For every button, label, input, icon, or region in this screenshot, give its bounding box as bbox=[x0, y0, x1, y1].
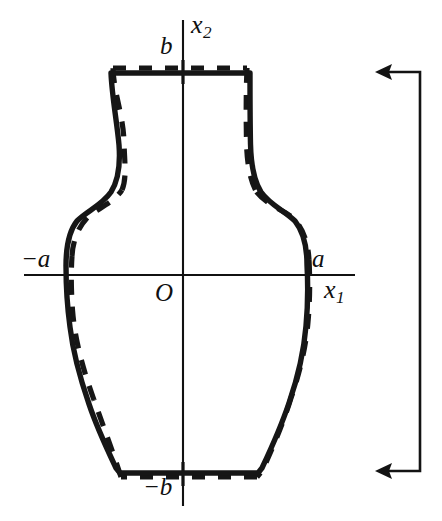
dashed-contour-group bbox=[71, 68, 309, 477]
figure-canvas: x2 x1 b −b −a a O bbox=[0, 0, 442, 521]
tick-label-a: a bbox=[312, 246, 325, 271]
axis-label-x1: x1 bbox=[324, 277, 345, 306]
tick-label-b: b bbox=[160, 33, 173, 58]
axis-label-x2-base: x bbox=[191, 10, 203, 39]
vase-profile-diagram bbox=[0, 0, 442, 521]
tick-label-minus-b: −b bbox=[143, 474, 172, 499]
tick-label-minus-a: −a bbox=[21, 246, 50, 271]
axis-label-x2: x2 bbox=[191, 12, 212, 41]
origin-label: O bbox=[155, 280, 173, 305]
axis-label-x1-subscript: 1 bbox=[336, 288, 345, 307]
axis-label-x1-base: x bbox=[324, 275, 336, 304]
bracket-path bbox=[386, 72, 420, 471]
solid-vase-outline bbox=[66, 73, 308, 473]
solid-contour-group bbox=[66, 73, 308, 473]
dashed-left-shoulder bbox=[72, 190, 122, 256]
axis-label-x2-subscript: 2 bbox=[203, 23, 212, 42]
bracket-arrow-group bbox=[375, 64, 420, 479]
